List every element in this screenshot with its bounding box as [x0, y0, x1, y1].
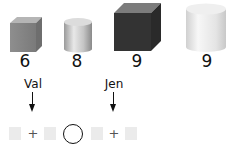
- large-cylinder-icon: [185, 2, 227, 53]
- label-jen: Jen: [94, 78, 134, 91]
- object-value-2: 8: [62, 53, 92, 70]
- answer-box-4[interactable]: [125, 127, 137, 140]
- small-cube-icon: [8, 16, 44, 53]
- answer-box-3[interactable]: [91, 127, 103, 140]
- small-cylinder-icon: [63, 17, 93, 53]
- arrow-down-icon: [110, 104, 116, 112]
- object-value-1: 6: [10, 53, 40, 70]
- label-val: Val: [13, 78, 53, 91]
- plus-sign: +: [27, 127, 39, 140]
- comparison-circle[interactable]: [63, 124, 83, 144]
- arrow-down-icon: [29, 104, 35, 112]
- answer-box-1[interactable]: [9, 127, 21, 140]
- object-value-3: 9: [122, 53, 152, 70]
- answer-box-2[interactable]: [44, 127, 56, 140]
- large-cube-icon: [113, 2, 162, 52]
- object-value-4: 9: [192, 53, 222, 70]
- plus-sign: +: [108, 127, 120, 140]
